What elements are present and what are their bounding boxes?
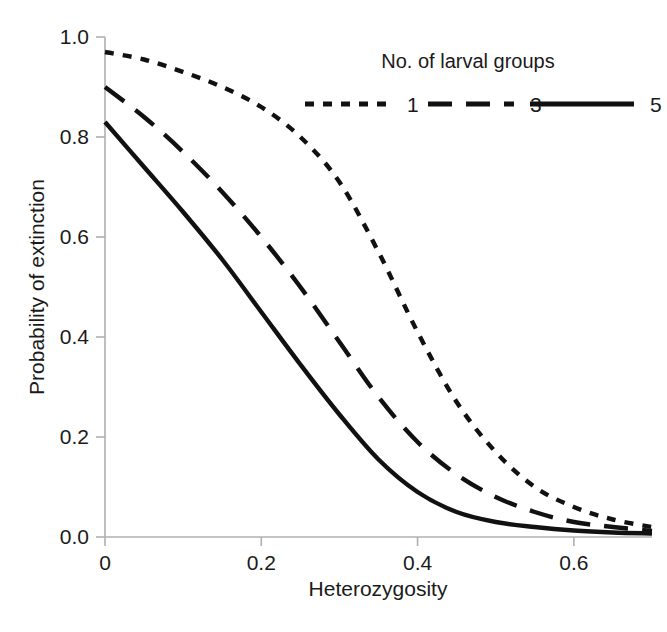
chart-legend: No. of larval groups 135	[305, 50, 662, 116]
line-chart: 0.00.20.40.60.81.0 00.20.40.6 Heterozygo…	[0, 0, 667, 632]
legend-label-1: 1	[407, 93, 419, 116]
y-tick-label: 0.4	[60, 325, 90, 348]
y-tick-label: 0.2	[60, 425, 89, 448]
x-axis-ticks: 00.20.40.6	[99, 537, 588, 574]
y-tick-label: 0.0	[60, 525, 89, 548]
data-series-group	[105, 52, 652, 534]
y-tick-label: 1.0	[60, 25, 89, 48]
y-axis-title: Probability of extinction	[25, 179, 48, 395]
x-tick-label: 0.2	[247, 551, 276, 574]
legend-label-5: 5	[650, 93, 662, 116]
y-tick-label: 0.8	[60, 125, 89, 148]
series-line-3	[105, 87, 652, 531]
legend-entries: 135	[305, 93, 662, 116]
y-tick-label: 0.6	[60, 225, 89, 248]
series-line-1	[105, 52, 652, 527]
x-tick-label: 0	[99, 551, 111, 574]
x-tick-label: 0.4	[403, 551, 433, 574]
chart-figure: 0.00.20.40.60.81.0 00.20.40.6 Heterozygo…	[0, 0, 667, 632]
y-axis-ticks: 0.00.20.40.60.81.0	[60, 25, 105, 548]
x-axis-title: Heterozygosity	[309, 577, 448, 600]
legend-title: No. of larval groups	[381, 50, 554, 72]
x-tick-label: 0.6	[559, 551, 588, 574]
series-line-5	[105, 122, 652, 534]
